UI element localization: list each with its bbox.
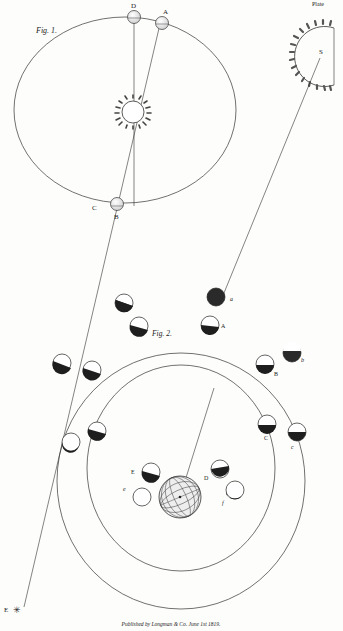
label-B: B: [114, 213, 119, 221]
moon-outer-a: a: [207, 288, 233, 306]
label-e-outer: e: [123, 486, 126, 492]
fig2-title: Fig. 2.: [151, 329, 172, 338]
engraved-plate: Plate Fig. 1. D A: [0, 0, 343, 631]
moon-outer-b: b: [283, 342, 304, 363]
label-C: C: [92, 204, 97, 212]
moon-outer-c: c: [288, 423, 306, 450]
moon-inner-A: A: [201, 316, 226, 335]
label-E: E: [4, 606, 8, 614]
moon-inner-B: B: [256, 355, 278, 377]
planet-D: D: [128, 2, 141, 24]
astronomy-diagram: Plate Fig. 1. D A: [0, 0, 343, 631]
publication-caption: Published by Longman & Co. June 1st 1819…: [121, 621, 221, 627]
label-S: S: [319, 48, 323, 56]
moon-inner-left-lower: [88, 422, 106, 441]
moon-inner-left-upper: [83, 361, 101, 380]
star-icon: ✳: [13, 605, 21, 615]
label-B-inner: B: [274, 371, 278, 377]
label-f: f: [222, 500, 225, 506]
fig2: Fig. 2. a: [52, 288, 306, 609]
moon-outer-left-lower: [62, 433, 80, 453]
earth-globe-icon: [155, 470, 205, 523]
corner-plate-mark: Plate: [312, 1, 324, 7]
fig1-title: Fig. 1.: [35, 26, 57, 35]
moon-inner-D: D: [204, 460, 229, 481]
moon-inner-C: C: [258, 415, 276, 441]
label-D: D: [131, 2, 136, 10]
sun-S-rays: [290, 20, 331, 90]
star-E: E ✳: [4, 605, 21, 615]
sun-S-arc: [295, 27, 334, 87]
sun-icon: [115, 95, 151, 129]
label-c: c: [291, 444, 294, 450]
label-A-inner: A: [221, 323, 226, 329]
moon-outer-top-left: [115, 294, 133, 312]
moon-outer-left-upper: [52, 354, 71, 374]
moon-inner-E: E: [131, 463, 160, 483]
label-C-inner: C: [264, 435, 268, 441]
moon-outer-e: e: [123, 486, 151, 506]
moon-outer-f: f: [222, 481, 244, 506]
planet-A: A: [156, 8, 169, 30]
planet-B: B C: [92, 198, 124, 222]
label-b: b: [301, 357, 304, 363]
label-A: A: [163, 8, 168, 16]
label-a: a: [230, 296, 233, 302]
label-E-inner: E: [131, 469, 135, 475]
moon-inner-top-left: [130, 317, 148, 337]
line-S-to-a: [224, 58, 320, 293]
label-D-inner: D: [204, 475, 209, 481]
fig2-inner-orbit: [87, 365, 275, 571]
sun-S: S: [224, 20, 334, 293]
